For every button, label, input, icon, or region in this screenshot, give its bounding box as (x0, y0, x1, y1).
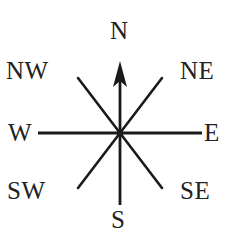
label-southwest: SW (7, 178, 46, 203)
ray-southwest (78, 133, 120, 188)
label-northeast: NE (180, 58, 214, 83)
compass-rose-diagram: N NE E SE S SW W NW (0, 0, 242, 245)
label-west: W (8, 120, 32, 145)
label-south: S (111, 207, 125, 232)
label-east: E (204, 120, 220, 145)
label-north: N (110, 18, 129, 43)
label-southeast: SE (180, 178, 210, 203)
ray-southeast (120, 133, 162, 188)
label-northwest: NW (6, 58, 49, 83)
compass-center-point (117, 130, 123, 136)
